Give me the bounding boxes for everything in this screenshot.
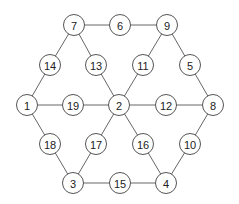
node-label: 12 <box>160 100 172 112</box>
node-label: 19 <box>67 100 79 112</box>
nodes-layer: 12345678910111213141516171819 <box>17 15 224 194</box>
node-label: 8 <box>210 100 216 112</box>
node-label: 14 <box>44 60 56 72</box>
node-label: 11 <box>137 60 148 72</box>
graph-canvas: 12345678910111213141516171819 <box>0 0 239 204</box>
node-13: 13 <box>86 55 107 76</box>
node-9: 9 <box>157 15 178 36</box>
node-7: 7 <box>64 15 85 36</box>
node-label: 18 <box>44 139 56 151</box>
node-19: 19 <box>63 95 84 116</box>
node-label: 3 <box>70 178 76 190</box>
node-label: 4 <box>163 178 169 190</box>
hexagon-graph-diagram: 12345678910111213141516171819 <box>0 0 239 204</box>
node-label: 13 <box>90 60 102 72</box>
node-1: 1 <box>17 95 38 116</box>
node-18: 18 <box>40 134 61 155</box>
node-10: 10 <box>180 134 201 155</box>
node-label: 10 <box>184 139 196 151</box>
node-15: 15 <box>110 173 131 194</box>
node-label: 15 <box>114 178 126 190</box>
node-14: 14 <box>40 55 61 76</box>
node-11: 11 <box>133 55 154 76</box>
node-label: 17 <box>90 139 102 151</box>
node-16: 16 <box>133 134 154 155</box>
node-label: 2 <box>116 100 122 112</box>
node-label: 1 <box>24 100 30 112</box>
node-label: 6 <box>117 20 123 32</box>
node-4: 4 <box>156 173 177 194</box>
node-label: 5 <box>187 60 193 72</box>
node-label: 7 <box>71 20 77 32</box>
node-17: 17 <box>86 134 107 155</box>
node-3: 3 <box>63 173 84 194</box>
node-12: 12 <box>156 95 177 116</box>
node-6: 6 <box>110 15 131 36</box>
node-8: 8 <box>203 95 224 116</box>
node-5: 5 <box>180 55 201 76</box>
node-label: 16 <box>137 139 149 151</box>
node-label: 9 <box>164 20 170 32</box>
node-2: 2 <box>109 95 130 116</box>
